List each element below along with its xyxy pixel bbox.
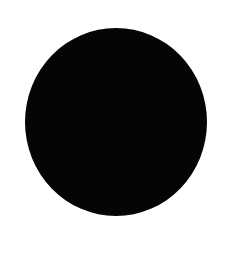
image-canvas: Solid black circle on white background A…: [0, 0, 235, 255]
black-circle: [25, 28, 207, 216]
black-circle-figure: [0, 0, 235, 255]
